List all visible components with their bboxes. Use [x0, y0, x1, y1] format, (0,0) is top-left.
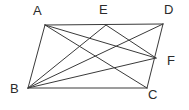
edge-BA	[28, 25, 45, 88]
geometry-canvas	[0, 0, 189, 110]
vertex-label-b: B	[10, 82, 19, 95]
vertex-label-c: C	[148, 88, 157, 101]
interior-segments	[28, 24, 163, 88]
geometry-figure: A E D F C B	[0, 0, 189, 110]
vertex-label-f: F	[167, 54, 175, 67]
vertex-label-d: D	[164, 3, 173, 16]
segment-EF	[106, 25, 156, 58]
vertex-label-a: A	[33, 4, 42, 17]
vertex-label-e: E	[99, 3, 108, 16]
segment-AC	[45, 25, 147, 88]
edge-AD	[45, 24, 163, 25]
